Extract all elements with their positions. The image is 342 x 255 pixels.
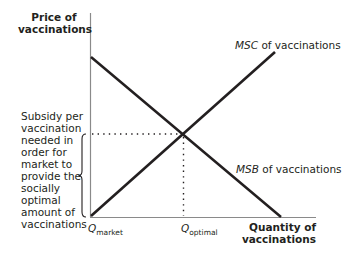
annotation-line: market to [21,158,87,170]
annotation-line: order for [21,146,87,158]
annotation-line: amount of [21,206,87,218]
subsidy-annotation: Subsidy per vaccination needed in order … [21,110,87,230]
annotation-line: socially [21,182,87,194]
q-market-label: Qmarket [88,222,123,234]
q-optimal-sub: optimal [189,228,217,237]
msc-label: MSC of vaccinations [235,39,341,51]
msb-label: MSB of vaccinations [236,163,342,175]
annotation-line: vaccination [21,122,87,134]
y-axis-label-line1: Price of [18,11,90,23]
annotation-line: provide the [21,170,87,182]
x-axis-label: Quantity of vaccinations [240,221,316,245]
msc-abbr: MSC [235,39,258,51]
x-axis-label-line2: vaccinations [240,233,316,245]
msc-suffix: of vaccinations [258,39,341,51]
annotation-line: vaccinations [21,218,87,230]
y-axis-label: Price of vaccinations [18,11,90,35]
subsidy-diagram: Price of vaccinations MSC of vaccination… [0,0,342,255]
annotation-line: Subsidy per [21,110,87,122]
q-optimal-label: Qoptimal [181,222,218,234]
annotation-line: optimal [21,194,87,206]
annotation-line: needed in [21,134,87,146]
q-market-sub: market [96,228,123,237]
msb-abbr: MSB [236,163,259,175]
y-axis-label-line2: vaccinations [18,23,90,35]
msc-curve [91,52,275,216]
msb-suffix: of vaccinations [259,163,342,175]
msb-curve [91,57,281,217]
x-axis-label-line1: Quantity of [240,221,316,233]
